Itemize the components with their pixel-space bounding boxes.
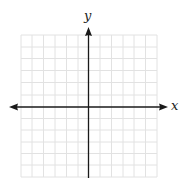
x-axis-label: x bbox=[171, 99, 178, 112]
x-axis-left-arrow-icon bbox=[9, 104, 18, 111]
y-axis-label: y bbox=[84, 9, 91, 22]
x-axis-right-arrow-icon bbox=[159, 104, 168, 111]
y-axis-up-arrow-icon bbox=[85, 27, 92, 36]
y-axis bbox=[85, 27, 92, 178]
coordinate-plane bbox=[0, 0, 182, 179]
